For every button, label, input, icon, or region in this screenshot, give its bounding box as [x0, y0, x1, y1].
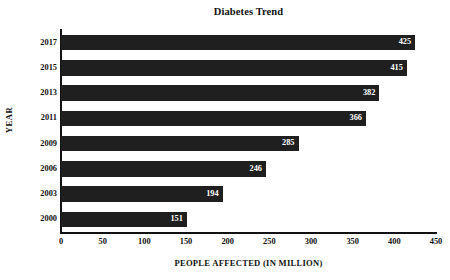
bar-value-label: 285: [282, 139, 294, 147]
x-tick-label-100: 100: [129, 238, 159, 246]
x-tick-label-400: 400: [379, 238, 409, 246]
bar-value-label: 246: [250, 165, 262, 173]
bar-2009: 285: [61, 136, 299, 152]
y-tick-label-2006: 2006: [16, 165, 57, 173]
y-tick-label-2000: 2000: [16, 215, 57, 223]
bar-2013: 382: [61, 85, 379, 101]
x-tick-label-450: 450: [421, 238, 450, 246]
bar-value-label: 415: [390, 64, 402, 72]
bar-value-label: 366: [350, 114, 362, 122]
bar-row: 415: [61, 60, 436, 76]
bar-2003: 194: [61, 186, 223, 202]
x-tick-label-300: 300: [296, 238, 326, 246]
x-axis-line: [60, 232, 437, 234]
bar-value-label: 425: [399, 38, 411, 46]
bar-row: 366: [61, 111, 436, 127]
x-tick-label-200: 200: [213, 238, 243, 246]
chart-title: Diabetes Trend: [61, 6, 436, 17]
y-axis-title: YEAR: [4, 98, 14, 142]
y-tick-label-2013: 2013: [16, 89, 57, 97]
bar-value-label: 151: [170, 215, 182, 223]
bar-row: 425: [61, 35, 436, 51]
y-tick-label-2017: 2017: [16, 39, 57, 47]
bar-row: 246: [61, 161, 436, 177]
bar-2011: 366: [61, 111, 366, 127]
diabetes-trend-bar-chart: Diabetes Trend YEAR PEOPLE AFFECTED (IN …: [0, 0, 450, 280]
x-tick-label-350: 350: [338, 238, 368, 246]
bar-value-label: 194: [206, 190, 218, 198]
x-tick-label-150: 150: [171, 238, 201, 246]
y-tick-label-2009: 2009: [16, 140, 57, 148]
plot-area: 425415382366285246194151: [61, 30, 436, 232]
bar-row: 382: [61, 85, 436, 101]
bar-2015: 415: [61, 60, 407, 76]
x-tick-label-250: 250: [254, 238, 284, 246]
x-axis-title: PEOPLE AFFECTED (IN MILLION): [61, 258, 436, 268]
y-tick-label-2003: 2003: [16, 190, 57, 198]
x-tick-label-0: 0: [46, 238, 76, 246]
bar-value-label: 382: [363, 89, 375, 97]
bar-row: 194: [61, 186, 436, 202]
bar-row: 151: [61, 212, 436, 228]
bar-2017: 425: [61, 35, 415, 51]
bar-2000: 151: [61, 212, 187, 228]
x-tick-label-50: 50: [88, 238, 118, 246]
bar-2006: 246: [61, 161, 266, 177]
bar-row: 285: [61, 136, 436, 152]
y-tick-label-2011: 2011: [16, 114, 57, 122]
y-tick-label-2015: 2015: [16, 64, 57, 72]
